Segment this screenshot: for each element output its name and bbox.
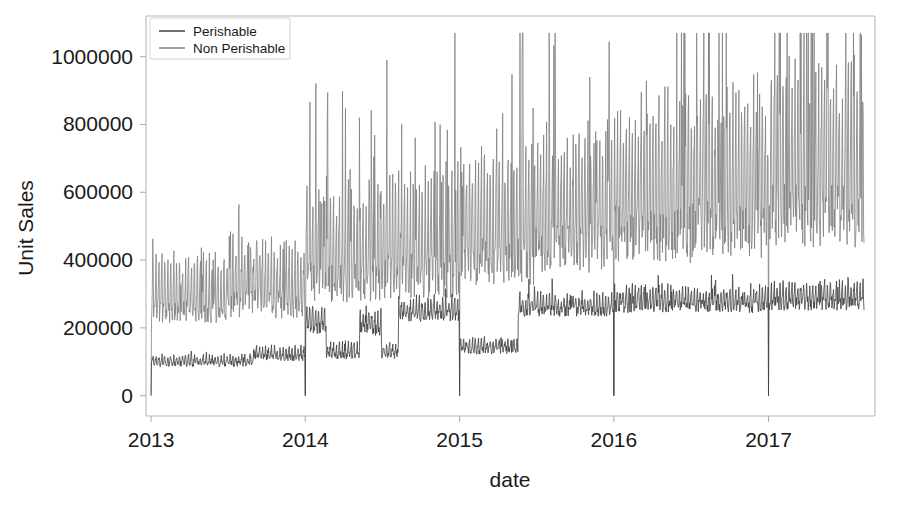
timeseries-chart: 10000008000006000004000002000000 2013201… (0, 0, 897, 515)
y-tick-label: 200000 (63, 316, 133, 339)
chart-legend[interactable]: Perishable Non Perishable (150, 18, 290, 59)
x-tick-label: 2016 (590, 428, 637, 451)
x-tick-label: 2013 (128, 428, 175, 451)
x-tick-label: 2014 (282, 428, 329, 451)
legend-label-non-perishable: Non Perishable (193, 41, 285, 56)
y-tick-label: 400000 (63, 248, 133, 271)
y-tick-label: 800000 (63, 112, 133, 135)
chart-figure: 10000008000006000004000002000000 2013201… (0, 0, 897, 515)
y-tick-label: 0 (121, 384, 133, 407)
y-tick-label: 1000000 (51, 45, 133, 68)
legend-label-perishable: Perishable (193, 24, 257, 39)
x-tick-label: 2015 (436, 428, 483, 451)
x-axis-label: date (490, 468, 531, 491)
y-axis-label: Unit Sales (14, 180, 37, 276)
x-tick-label: 2017 (745, 428, 792, 451)
y-tick-label: 600000 (63, 180, 133, 203)
